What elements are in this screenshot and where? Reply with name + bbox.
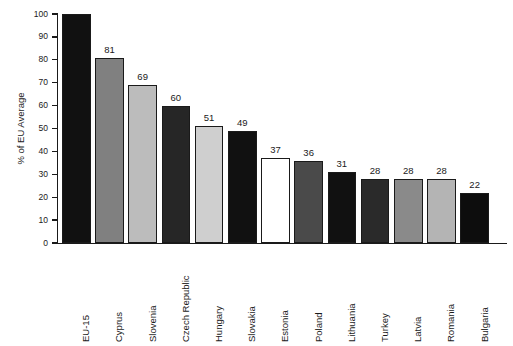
x-axis-category-label: Cyprus — [113, 250, 125, 342]
bar — [195, 126, 224, 243]
x-axis-category-label-wrap: Romania — [435, 250, 447, 342]
x-axis-category-label: Bulgaria — [479, 250, 491, 342]
x-axis-category-label: Romania — [445, 250, 457, 342]
y-axis-tick — [52, 128, 58, 129]
y-axis-tick-label-wrap: 80 — [20, 54, 48, 65]
x-axis-category-label: Estonia — [279, 250, 291, 342]
y-axis-tick — [52, 36, 58, 37]
x-axis-category-label-wrap: Lithuania — [336, 250, 348, 342]
bar — [228, 131, 257, 243]
bar-value-label: 81 — [89, 44, 130, 56]
y-axis-tick-label: 70 — [22, 77, 48, 87]
bar — [328, 172, 357, 243]
x-axis-category-label: Slovenia — [147, 250, 159, 342]
x-axis-category-label-wrap: Czech Republic — [170, 250, 182, 342]
bar — [261, 158, 290, 243]
x-axis-category-label: Turkey — [379, 250, 391, 342]
y-axis-tick-label-wrap: 50 — [20, 123, 48, 134]
y-axis-tick-label: 80 — [22, 54, 48, 64]
x-axis-category-label: Czech Republic — [180, 250, 192, 342]
bar — [95, 58, 124, 243]
y-axis-tick-label-wrap: 70 — [20, 77, 48, 88]
y-axis-tick — [52, 174, 58, 175]
x-axis-category-label-wrap: Estonia — [269, 250, 281, 342]
y-axis-tick-label: 20 — [22, 192, 48, 202]
y-axis-tick-label-wrap: 0 — [20, 238, 48, 249]
x-axis-category-label: Slovakia — [246, 250, 258, 342]
bar-value-label: 28 — [421, 165, 462, 177]
y-axis-tick — [52, 151, 58, 152]
bar — [394, 179, 423, 243]
y-axis-tick-label: 30 — [22, 169, 48, 179]
y-axis-tick-label-wrap: 40 — [20, 146, 48, 157]
bar — [361, 179, 390, 243]
bar — [62, 14, 91, 243]
y-axis-tick — [52, 219, 58, 220]
y-axis-tick-label: 50 — [22, 123, 48, 133]
y-axis-tick-label: 100 — [22, 9, 48, 19]
y-axis-tick — [52, 105, 58, 106]
x-axis-category-label-wrap: Turkey — [369, 250, 381, 342]
x-axis-category-label-wrap: Slovakia — [236, 250, 248, 342]
y-axis-tick-label-wrap: 90 — [20, 31, 48, 42]
x-axis-category-label: Poland — [313, 250, 325, 342]
x-axis-category-label-wrap: Cyprus — [103, 250, 115, 342]
bar — [427, 179, 456, 243]
y-axis-tick — [52, 13, 58, 14]
y-axis-tick — [52, 82, 58, 83]
bar-value-label: 49 — [222, 117, 263, 129]
bar — [294, 161, 323, 243]
x-axis-category-label-wrap: Latvia — [402, 250, 414, 342]
x-axis-category-label-wrap: Hungary — [203, 250, 215, 342]
y-axis-tick-label: 60 — [22, 100, 48, 110]
x-axis-category-label-wrap: Poland — [303, 250, 315, 342]
bar-value-label: 69 — [122, 71, 163, 83]
bar-value-label: 60 — [156, 92, 197, 104]
bar-chart: % of EU Average 0102030405060708090100 8… — [0, 0, 513, 346]
bar-value-label: 22 — [454, 179, 495, 191]
y-axis-tick-label-wrap: 100 — [20, 9, 48, 20]
x-axis-category-label: Hungary — [213, 250, 225, 342]
bar — [162, 106, 191, 243]
y-axis-tick-label-wrap: 10 — [20, 215, 48, 226]
y-axis-tick-label-wrap: 30 — [20, 169, 48, 180]
x-axis-category-label: EU-15 — [80, 250, 92, 342]
x-axis-category-label: Latvia — [412, 250, 424, 342]
y-axis-tick — [52, 59, 58, 60]
x-axis-category-label-wrap: EU-15 — [70, 250, 82, 342]
y-axis-tick-label: 40 — [22, 146, 48, 156]
bar — [460, 193, 489, 243]
y-axis-tick-label-wrap: 20 — [20, 192, 48, 203]
y-axis-tick-label: 0 — [22, 238, 48, 248]
y-axis-tick-label: 90 — [22, 31, 48, 41]
bar-value-label: 36 — [288, 147, 329, 159]
y-axis-tick — [52, 242, 58, 243]
x-axis-category-label: Lithuania — [346, 250, 358, 342]
x-axis-category-label-wrap: Bulgaria — [469, 250, 481, 342]
y-axis-tick — [52, 197, 58, 198]
y-axis-tick-label-wrap: 60 — [20, 100, 48, 111]
y-axis-tick-label: 10 — [22, 215, 48, 225]
x-axis-category-label-wrap: Slovenia — [137, 250, 149, 342]
bar — [128, 85, 157, 243]
